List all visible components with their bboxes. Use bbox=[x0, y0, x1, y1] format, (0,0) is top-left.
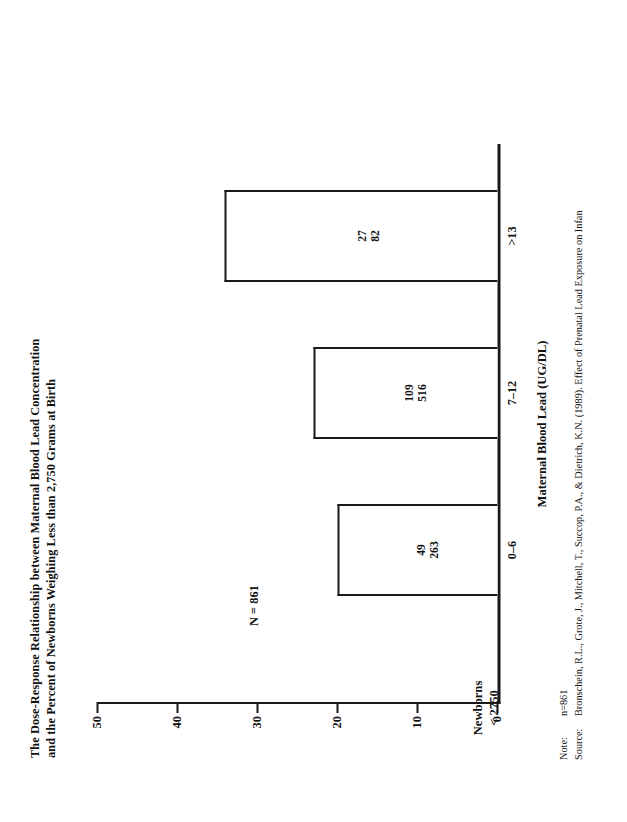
figure-title-line-1: The Dose-Response Relationship between M… bbox=[27, 339, 41, 758]
category-label-0-6: 0–6 bbox=[504, 541, 519, 559]
value-tick-20 bbox=[336, 704, 338, 713]
footer-source-row: Source: Bronschein, R.L., Grote, J., Mit… bbox=[571, 14, 586, 760]
bar-group-7-12: 109 516 7–12 bbox=[96, 347, 497, 439]
value-tick-label-40: 40 bbox=[170, 716, 185, 729]
plot-area: 0 10 20 30 40 50 49 263 0–6 bbox=[96, 144, 500, 704]
x-axis-title: Maternal Blood Lead (UG/DL) bbox=[534, 144, 549, 704]
sample-size-annotation: N = 861 bbox=[246, 585, 261, 626]
y-axis-title-line-2: < 2750 bbox=[486, 588, 502, 822]
bar-0-6-numerator: 49 bbox=[414, 541, 428, 558]
value-tick-40 bbox=[176, 704, 178, 713]
value-tick-label-30: 30 bbox=[250, 716, 265, 729]
bar-group-gt-13: 27 82 >13 bbox=[96, 190, 497, 282]
y-axis-title-line-1: Newborns bbox=[470, 588, 486, 822]
figure-title-line-2: and the Percent of Newborns Weighing Les… bbox=[42, 58, 58, 758]
value-tick-10 bbox=[416, 704, 418, 713]
category-label-7-12: 7–12 bbox=[504, 381, 519, 405]
rotated-figure-page: The Dose-Response Relationship between M… bbox=[0, 0, 627, 822]
figure-footer: Note: n=861 Source: Bronschein, R.L., Gr… bbox=[556, 14, 586, 760]
bar-gt-13-numerator: 27 bbox=[355, 230, 369, 242]
bar-0-6-labels: 49 263 bbox=[414, 541, 441, 558]
footer-note-row: Note: n=861 bbox=[556, 14, 571, 760]
figure-title: The Dose-Response Relationship between M… bbox=[26, 58, 58, 758]
value-tick-label-50: 50 bbox=[90, 716, 105, 729]
category-label-gt-13: >13 bbox=[504, 226, 519, 245]
bar-series: 49 263 0–6 109 516 7–12 27 82 bbox=[96, 144, 497, 704]
value-tick-label-10: 10 bbox=[410, 716, 425, 729]
bar-7-12-labels: 109 516 bbox=[402, 384, 429, 401]
bar-0-6-denominator: 263 bbox=[427, 541, 441, 558]
footer-source-value: Bronschein, R.L., Grote, J., Mitchell, T… bbox=[571, 14, 586, 716]
footer-source-label: Source: bbox=[571, 716, 586, 760]
footer-note-label: Note: bbox=[556, 716, 571, 760]
bar-7-12-numerator: 109 bbox=[402, 384, 416, 401]
value-tick-30 bbox=[256, 704, 258, 713]
bar-gt-13-labels: 27 82 bbox=[355, 230, 382, 242]
bar-7-12-denominator: 516 bbox=[415, 384, 429, 401]
value-tick-50 bbox=[96, 704, 98, 713]
y-axis-title: Newborns < 2750 bbox=[470, 588, 501, 822]
value-tick-label-20: 20 bbox=[330, 716, 345, 729]
footer-note-value: n=861 bbox=[556, 14, 571, 716]
bar-gt-13-denominator: 82 bbox=[368, 230, 382, 242]
bar-group-0-6: 49 263 0–6 bbox=[96, 504, 497, 596]
